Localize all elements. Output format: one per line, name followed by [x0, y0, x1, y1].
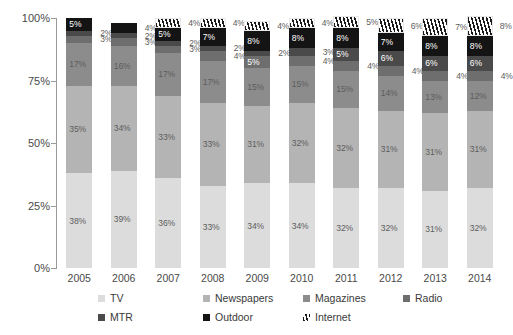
legend-swatch-icon [203, 295, 210, 302]
bar-segment[interactable]: 5% [333, 48, 359, 61]
bar-column[interactable]: 4%7%2%4%17%33%33% [200, 18, 226, 268]
bar-segment-value-label: 31% [470, 145, 487, 154]
bar-segment[interactable]: 3% [66, 36, 92, 44]
bar-segment-value-label: 15% [247, 82, 264, 91]
bar-segment[interactable]: 38% [66, 173, 92, 268]
bar-segment[interactable]: 17% [155, 53, 181, 96]
bar-segment[interactable]: 36% [155, 178, 181, 268]
bar-segment[interactable]: 7% [422, 18, 448, 36]
bar-segment[interactable]: 4% [378, 66, 404, 76]
legend-item[interactable]: Newspapers [203, 292, 273, 304]
bar-segment[interactable]: 3% [111, 38, 137, 46]
bar-segment[interactable]: 4% [111, 23, 137, 33]
bar-segment[interactable]: 13% [422, 81, 448, 114]
bar-segment[interactable]: 4% [289, 56, 315, 66]
bar-segment[interactable]: 15% [289, 66, 315, 104]
legend-swatch-icon [203, 314, 210, 321]
bar-segment-value-label: 31% [381, 145, 398, 154]
bar-segment[interactable]: 8% [244, 31, 270, 51]
bar-segment[interactable]: 31% [467, 111, 493, 189]
bar-segment[interactable]: 4% [200, 51, 226, 61]
bar-column[interactable]: 8%8%6%4%12%31%32% [467, 16, 493, 269]
bar-segment-value-label: 33% [203, 140, 220, 149]
bar-segment-value-label: 17% [158, 70, 175, 79]
legend-swatch-icon [303, 314, 310, 321]
bar-segment[interactable]: 4% [244, 21, 270, 31]
legend-item[interactable]: MTR [98, 311, 133, 323]
bar-segment-value-label: 33% [203, 222, 220, 231]
bar-segment[interactable]: 6% [378, 51, 404, 66]
bar-group: 5%2%3%17%35%38%4%2%3%16%34%39%4%5%2%3%17… [57, 18, 502, 268]
bar-segment[interactable]: 6% [422, 56, 448, 71]
legend-swatch-icon [98, 295, 105, 302]
bar-segment[interactable]: 16% [111, 46, 137, 86]
bar-segment[interactable]: 4% [422, 71, 448, 81]
bar-segment[interactable]: 31% [422, 113, 448, 191]
bar-segment[interactable]: 5% [244, 56, 270, 69]
bar-segment[interactable]: 5% [155, 28, 181, 41]
bar-segment[interactable]: 5% [66, 18, 92, 31]
bar-segment[interactable]: 32% [333, 188, 359, 268]
legend-item[interactable]: Internet [303, 311, 351, 323]
legend-label: Radio [415, 292, 442, 304]
bar-segment[interactable]: 15% [244, 68, 270, 106]
bar-segment-value-label: 5% [69, 20, 81, 29]
bar-segment[interactable]: 8% [467, 36, 493, 56]
bar-segment[interactable]: 8% [422, 36, 448, 56]
bar-column[interactable]: 5%8%5%4%15%32%32% [333, 16, 359, 269]
bar-segment[interactable]: 34% [289, 183, 315, 268]
bar-segment[interactable]: 31% [378, 111, 404, 189]
bar-segment[interactable]: 8% [467, 16, 493, 36]
bar-segment[interactable]: 8% [333, 28, 359, 48]
legend-item[interactable]: Magazines [303, 292, 366, 304]
legend-item[interactable]: TV [98, 292, 123, 304]
bar-segment[interactable]: 32% [378, 188, 404, 268]
bar-segment[interactable]: 6% [467, 56, 493, 71]
bar-segment[interactable]: 4% [200, 18, 226, 28]
bar-segment[interactable]: 3% [289, 48, 315, 56]
legend-item[interactable]: Outdoor [203, 311, 253, 323]
bar-segment[interactable]: 14% [378, 76, 404, 111]
bar-segment[interactable]: 17% [200, 61, 226, 104]
bar-column[interactable]: 4%5%2%3%17%33%36% [155, 18, 181, 268]
bar-segment[interactable]: 4% [467, 71, 493, 81]
bar-column[interactable]: 4%8%2%5%15%31%34% [244, 21, 270, 269]
bar-segment[interactable]: 32% [467, 188, 493, 268]
bar-segment[interactable]: 4% [333, 61, 359, 71]
y-axis-tick-label: 75% [4, 76, 50, 86]
bar-segment[interactable]: 34% [244, 183, 270, 268]
bar-column[interactable]: 4%2%3%16%34%39% [111, 23, 137, 268]
bar-column[interactable]: 6%7%6%4%14%31%32% [378, 18, 404, 268]
bar-segment[interactable]: 35% [66, 86, 92, 174]
bar-segment[interactable]: 39% [111, 171, 137, 269]
bar-column[interactable]: 5%2%3%17%35%38% [66, 18, 92, 268]
bar-segment[interactable]: 12% [467, 81, 493, 111]
bar-segment[interactable]: 3% [155, 46, 181, 54]
bar-segment[interactable]: 8% [289, 28, 315, 48]
bar-segment[interactable]: 4% [289, 18, 315, 28]
bar-segment[interactable]: 33% [155, 96, 181, 179]
bar-segment[interactable]: 33% [200, 103, 226, 186]
bar-segment[interactable]: 31% [244, 106, 270, 184]
bar-segment[interactable]: 34% [111, 86, 137, 171]
bar-segment-value-label: 32% [336, 144, 353, 153]
bar-segment[interactable]: 5% [333, 16, 359, 29]
bar-segment[interactable]: 4% [155, 18, 181, 28]
bar-segment[interactable]: 17% [66, 43, 92, 86]
bar-segment[interactable]: 15% [333, 71, 359, 109]
bar-column[interactable]: 4%8%3%4%15%32%34% [289, 18, 315, 268]
bar-segment-value-label: 31% [425, 147, 442, 156]
bar-segment[interactable]: 32% [289, 103, 315, 183]
bar-segment[interactable]: 32% [333, 108, 359, 188]
bar-segment[interactable]: 33% [200, 186, 226, 269]
bar-segment[interactable]: 6% [378, 18, 404, 33]
bar-column[interactable]: 7%8%6%4%13%31%31% [422, 18, 448, 268]
legend-item[interactable]: Radio [403, 292, 442, 304]
bar-segment[interactable]: 31% [422, 191, 448, 269]
bar-segment-value-label: 17% [69, 60, 86, 69]
y-axis-labels: 0%25%50%75%100% [0, 0, 50, 290]
bar-segment[interactable]: 7% [378, 33, 404, 51]
bar-segment[interactable]: 7% [200, 28, 226, 46]
x-axis-tick-label: 2005 [59, 272, 99, 284]
